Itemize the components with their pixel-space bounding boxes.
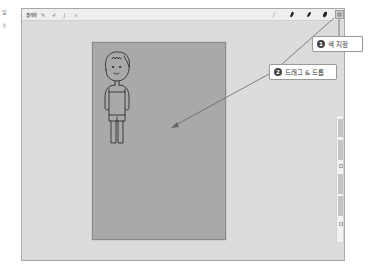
callout-number-1: 1 (317, 40, 325, 48)
callout-drag-drop: 2 드래그 & 드롭 (269, 64, 337, 80)
callout-number-2: 2 (274, 68, 282, 76)
callout-label-2: 드래그 & 드롭 (285, 67, 324, 77)
callout-label-1: 색 지정 (328, 39, 348, 49)
callout-color-select: 1 색 지정 (312, 36, 363, 52)
